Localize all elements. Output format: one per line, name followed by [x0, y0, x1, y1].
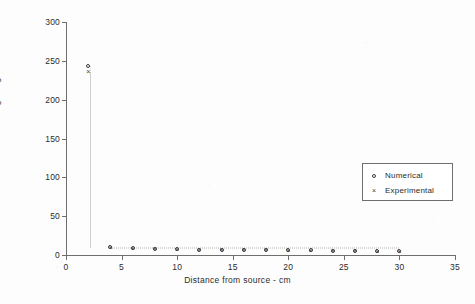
- x-tick-label: 5: [119, 262, 124, 272]
- x-tick: [288, 255, 289, 260]
- y-tick-label: 200: [45, 95, 60, 105]
- y-axis-label: Sorbed concentration - mg/100gm: [0, 70, 1, 208]
- data-point-experimental: ×: [285, 248, 291, 254]
- legend-label-numerical: Numerical: [385, 171, 423, 180]
- x-tick: [66, 255, 67, 260]
- x-tick-label: 25: [339, 262, 349, 272]
- x-axis-label: Distance from source - cm: [0, 275, 475, 285]
- y-tick: [62, 22, 67, 23]
- chart-figure: 050100150200250300 05101520253035 ××××××…: [0, 0, 475, 304]
- y-tick: [62, 216, 67, 217]
- x-tick-label: 0: [64, 262, 69, 272]
- y-tick-label: 0: [55, 250, 60, 260]
- y-tick-label: 250: [45, 56, 60, 66]
- data-point-experimental: ×: [374, 249, 380, 255]
- x-tick-label: 15: [228, 262, 238, 272]
- data-point-numerical: [397, 249, 401, 253]
- data-point-numerical: [375, 249, 379, 253]
- data-point-experimental: ×: [396, 249, 402, 255]
- y-tick: [62, 177, 67, 178]
- x-tick: [177, 255, 178, 260]
- y-tick: [62, 100, 67, 101]
- x-tick-label: 20: [283, 262, 293, 272]
- y-tick: [62, 61, 67, 62]
- x-tick: [399, 255, 400, 260]
- legend-label-experimental: Experimental: [385, 186, 434, 195]
- y-tick: [62, 139, 67, 140]
- x-marker-icon: ×: [363, 187, 385, 194]
- legend-item-experimental: × Experimental: [363, 183, 452, 198]
- data-point-experimental: ×: [308, 248, 314, 254]
- circle-marker-icon: [363, 174, 385, 178]
- x-tick-label: 10: [172, 262, 182, 272]
- y-tick-label: 300: [45, 17, 60, 27]
- x-tick: [122, 255, 123, 260]
- data-point-experimental: ×: [352, 248, 358, 254]
- plot-area: 050100150200250300 05101520253035 ××××××…: [66, 22, 455, 255]
- y-tick-label: 150: [45, 134, 60, 144]
- x-tick: [455, 255, 456, 260]
- x-tick-label: 35: [450, 262, 460, 272]
- y-tick-label: 50: [50, 211, 60, 221]
- x-axis-line: [66, 255, 455, 256]
- trace-segment: [90, 72, 91, 248]
- trace-segment: [110, 248, 399, 249]
- data-point-numerical: [353, 249, 357, 253]
- chart-legend: Numerical × Experimental: [362, 163, 453, 201]
- data-point-experimental: ×: [330, 248, 336, 254]
- legend-item-numerical: Numerical: [363, 168, 452, 183]
- x-tick: [233, 255, 234, 260]
- data-point-numerical: [331, 249, 335, 253]
- x-tick: [344, 255, 345, 260]
- x-tick-label: 30: [394, 262, 404, 272]
- y-tick-label: 100: [45, 172, 60, 182]
